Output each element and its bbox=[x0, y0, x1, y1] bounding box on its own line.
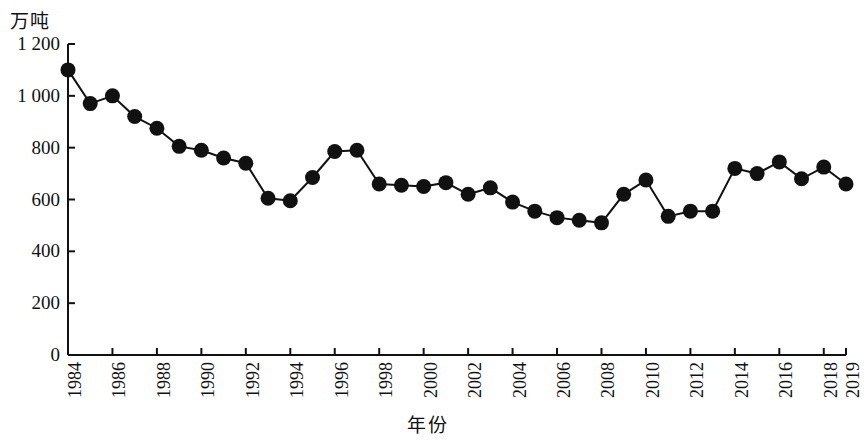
data-point bbox=[149, 121, 164, 136]
x-axis-tick-label: 2014 bbox=[731, 362, 752, 398]
x-axis-tick-label: 1984 bbox=[65, 362, 86, 398]
x-axis-tick-label: 1992 bbox=[242, 362, 263, 398]
data-point bbox=[194, 143, 209, 158]
x-axis-tick-label: 2002 bbox=[465, 362, 486, 398]
data-point bbox=[105, 88, 120, 103]
x-axis-tick-label: 1994 bbox=[287, 362, 308, 398]
x-axis-tick-label: 2016 bbox=[776, 362, 797, 398]
data-point bbox=[394, 178, 409, 193]
data-point bbox=[461, 187, 476, 202]
x-axis-tick-label: 1986 bbox=[109, 362, 130, 398]
data-point bbox=[572, 213, 587, 228]
data-point bbox=[727, 161, 742, 176]
x-axis-ticks bbox=[68, 348, 846, 355]
data-point bbox=[483, 180, 498, 195]
x-axis-tick-label: 1990 bbox=[198, 362, 219, 398]
data-point bbox=[261, 191, 276, 206]
plot-area bbox=[68, 44, 846, 355]
data-point bbox=[594, 215, 609, 230]
x-axis-tick-label: 2006 bbox=[554, 362, 575, 398]
data-point bbox=[839, 176, 854, 191]
data-point bbox=[661, 209, 676, 224]
data-point bbox=[816, 160, 831, 175]
y-axis-tick-labels: 02004006008001 0001 200 bbox=[0, 0, 60, 440]
x-axis-tick-label: 2004 bbox=[509, 362, 530, 398]
x-axis-tick-label: 2018 bbox=[820, 362, 841, 398]
data-point bbox=[349, 143, 364, 158]
x-axis-tick-label: 2019 bbox=[843, 362, 864, 398]
data-point bbox=[550, 210, 565, 225]
x-axis-title: 年份 bbox=[0, 410, 855, 437]
series-canvas bbox=[68, 44, 846, 355]
data-point bbox=[327, 144, 342, 159]
data-point bbox=[683, 204, 698, 219]
x-axis-tick-label: 2008 bbox=[598, 362, 619, 398]
data-point bbox=[372, 176, 387, 191]
x-axis-tick-label: 1996 bbox=[331, 362, 352, 398]
y-axis-tick-label: 600 bbox=[32, 189, 61, 211]
x-axis-tick-label: 2012 bbox=[687, 362, 708, 398]
data-point bbox=[505, 195, 520, 210]
series-markers bbox=[61, 62, 854, 230]
y-axis-tick-label: 1 200 bbox=[17, 33, 60, 55]
x-axis-tick-label: 2010 bbox=[642, 362, 663, 398]
x-axis-tick-label: 2000 bbox=[420, 362, 441, 398]
data-point bbox=[416, 179, 431, 194]
x-axis-tick-label: 1998 bbox=[376, 362, 397, 398]
y-axis-tick-label: 200 bbox=[32, 292, 61, 314]
data-point bbox=[638, 173, 653, 188]
data-point bbox=[238, 156, 253, 171]
y-axis-tick-label: 800 bbox=[32, 137, 61, 159]
data-point bbox=[794, 171, 809, 186]
y-axis-tick-label: 0 bbox=[51, 344, 61, 366]
y-axis-tick-label: 400 bbox=[32, 240, 61, 262]
data-point bbox=[527, 204, 542, 219]
data-point bbox=[61, 62, 76, 77]
y-axis-tick-label: 1 000 bbox=[17, 85, 60, 107]
data-point bbox=[772, 154, 787, 169]
axis-lines bbox=[68, 44, 846, 355]
data-point bbox=[283, 193, 298, 208]
data-point bbox=[438, 175, 453, 190]
data-point bbox=[216, 151, 231, 166]
y-axis-ticks bbox=[68, 44, 75, 355]
data-point bbox=[83, 96, 98, 111]
data-point bbox=[705, 204, 720, 219]
data-point bbox=[305, 170, 320, 185]
data-point bbox=[750, 166, 765, 181]
data-point bbox=[172, 139, 187, 154]
data-point bbox=[127, 109, 142, 124]
x-axis-tick-label: 1988 bbox=[153, 362, 174, 398]
data-point bbox=[616, 187, 631, 202]
